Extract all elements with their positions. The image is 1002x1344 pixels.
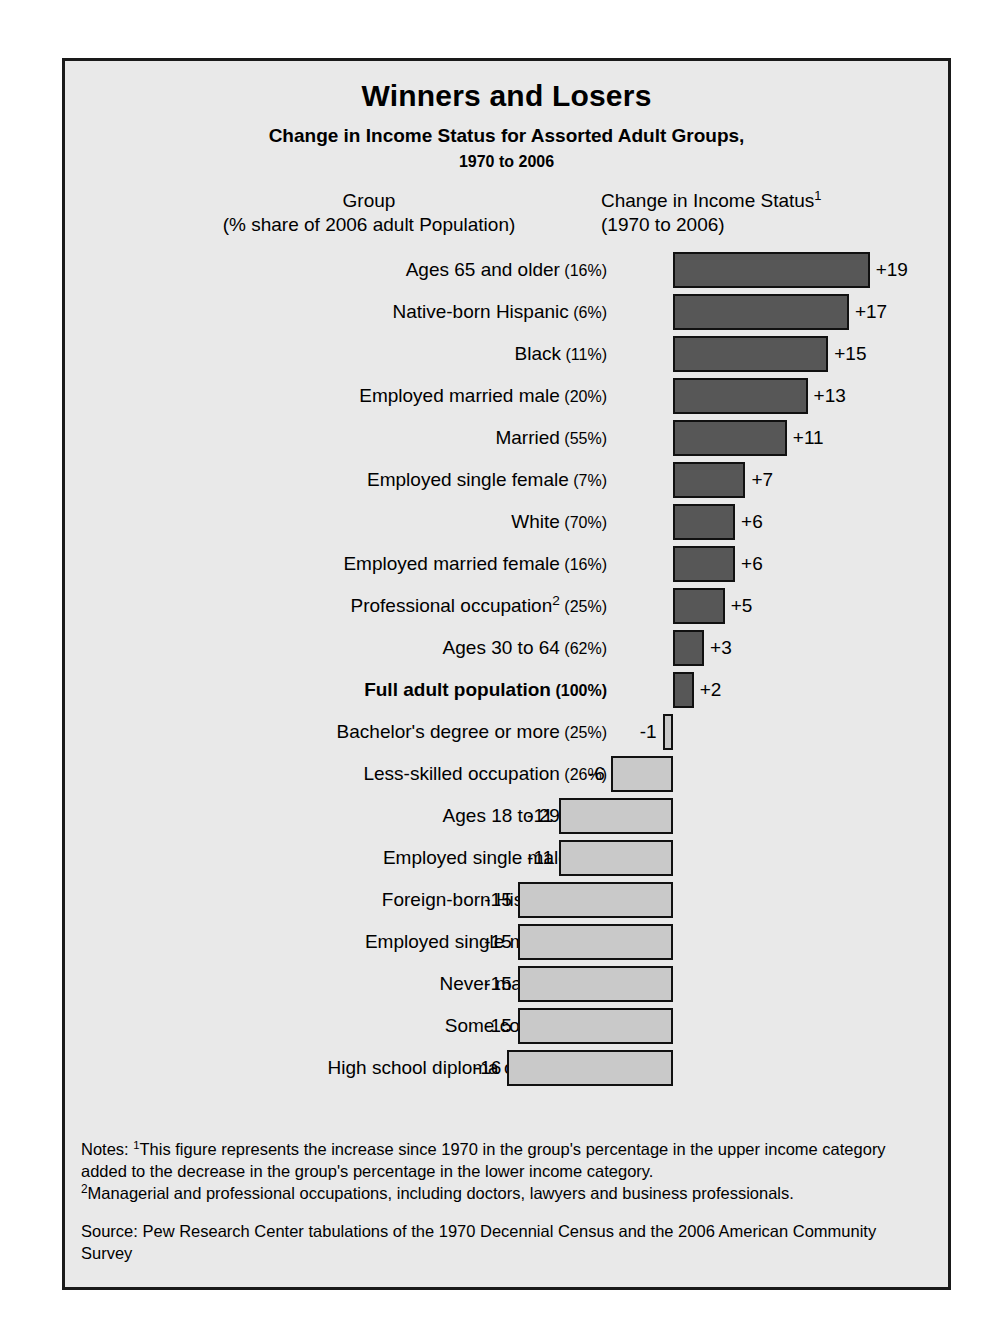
bar-row-name: Employed married female <box>343 553 559 574</box>
source-line: Source: Pew Research Center tabulations … <box>81 1221 932 1265</box>
bar-row: Married (55%)+11 <box>65 417 948 459</box>
note-text-1: This figure represents the increase sinc… <box>81 1140 886 1180</box>
bar-row-label: Black (11%) <box>515 333 607 375</box>
bar-row-label: Professional occupation2 (25%) <box>351 585 607 627</box>
notes-block: Notes: 1This figure represents the incre… <box>81 1139 932 1205</box>
bar-row: Employed single male (9%)-11 <box>65 837 948 879</box>
bar-row: Employed single mother (9%)-15 <box>65 921 948 963</box>
bar-value-label: -11 <box>513 795 553 837</box>
bar-row: Never married (25%)-15 <box>65 963 948 1005</box>
bar-value-label: +7 <box>751 459 773 501</box>
bar-value-label: -15 <box>472 921 512 963</box>
chart-figure: Winners and Losers Change in Income Stat… <box>62 58 951 1290</box>
bar-row-name: Less-skilled occupation <box>363 763 559 784</box>
bar-positive <box>673 294 849 330</box>
bar-row-label: Employed married female (16%) <box>343 543 607 585</box>
footnote-marker-1: 1 <box>814 187 821 202</box>
bar-row-share: (100%) <box>551 682 607 699</box>
bar-value-label: -6 <box>565 753 605 795</box>
bar-positive <box>673 672 694 708</box>
bar-row-label: Married (55%) <box>495 417 607 459</box>
bar-value-label: +11 <box>793 417 824 459</box>
bar-row-name: Bachelor's degree or more <box>337 721 560 742</box>
bar-value-label: -15 <box>472 879 512 921</box>
bar-row: White (70%)+6 <box>65 501 948 543</box>
bar-negative <box>507 1050 673 1086</box>
chart-subtitle-years: 1970 to 2006 <box>65 153 948 171</box>
chart-subtitle: Change in Income Status for Assorted Adu… <box>65 124 948 148</box>
bar-value-label: +6 <box>741 501 763 543</box>
bar-row: Ages 65 and older (16%)+19 <box>65 249 948 291</box>
column-header-change-text: Change in Income Status <box>601 190 814 211</box>
bar-row-name: Black <box>515 343 561 364</box>
bar-value-label: -11 <box>513 837 553 879</box>
bar-row: Foreign-born Hispanic (8%)-15 <box>65 879 948 921</box>
bar-row-label: White (70%) <box>511 501 607 543</box>
bar-value-label: +5 <box>731 585 753 627</box>
bar-negative <box>518 966 673 1002</box>
bar-row: Native-born Hispanic (6%)+17 <box>65 291 948 333</box>
bar-row-label: Native-born Hispanic (6%) <box>392 291 607 333</box>
bar-row-name: Employed married male <box>359 385 560 406</box>
bar-positive <box>673 504 735 540</box>
bar-negative <box>559 798 673 834</box>
bar-row-share: (6%) <box>569 304 607 321</box>
bar-row-share: (25%) <box>560 724 607 741</box>
bar-row: Ages 30 to 64 (62%)+3 <box>65 627 948 669</box>
bar-positive <box>673 546 735 582</box>
bar-row: Professional occupation2 (25%)+5 <box>65 585 948 627</box>
bar-row-label: Full adult population (100%) <box>364 669 607 711</box>
bar-row-name: Ages 30 to 64 <box>443 637 560 658</box>
bar-row-name: Married <box>495 427 559 448</box>
bar-row-share: (16%) <box>560 556 607 573</box>
bar-row: Ages 18 to 29 (21%)-11 <box>65 795 948 837</box>
bar-row: Black (11%)+15 <box>65 333 948 375</box>
notes-label: Notes: <box>81 1140 129 1158</box>
column-header-group-line2: (% share of 2006 adult Population) <box>65 213 673 237</box>
bar-value-label: +13 <box>814 375 846 417</box>
bar-value-label: +19 <box>876 249 908 291</box>
bar-value-label: +6 <box>741 543 763 585</box>
bar-row-share: (11%) <box>561 346 607 363</box>
bar-row-share: (7%) <box>569 472 607 489</box>
bar-row-name: White <box>511 511 560 532</box>
bar-positive <box>673 378 808 414</box>
bar-row-label: Bachelor's degree or more (25%) <box>337 711 607 753</box>
bar-value-label: +3 <box>710 627 732 669</box>
bar-row-label: Ages 30 to 64 (62%) <box>443 627 607 669</box>
bar-row-name: Employed single female <box>367 469 569 490</box>
bar-row-share: (55%) <box>560 430 607 447</box>
bar-row-share: (62%) <box>560 640 607 657</box>
bar-row: Less-skilled occupation (26%)-6 <box>65 753 948 795</box>
bar-row: Employed married male (20%)+13 <box>65 375 948 417</box>
bar-positive <box>673 420 787 456</box>
bar-row-share: (25%) <box>560 598 607 615</box>
bar-row: Bachelor's degree or more (25%)-1 <box>65 711 948 753</box>
column-header-group: Group (% share of 2006 adult Population) <box>65 189 673 238</box>
bar-positive <box>673 630 704 666</box>
bar-negative <box>611 756 673 792</box>
bar-row-name: Native-born Hispanic <box>392 301 568 322</box>
bar-value-label: +17 <box>855 291 887 333</box>
bar-plot-area: Ages 65 and older (16%)+19Native-born Hi… <box>65 249 948 1101</box>
bar-row-name: Professional occupation <box>351 595 553 616</box>
column-header-group-line1: Group <box>65 189 673 213</box>
bar-row-share: (70%) <box>560 514 607 531</box>
bar-row: Employed single female (7%)+7 <box>65 459 948 501</box>
bar-row-label: Employed married male (20%) <box>359 375 607 417</box>
bar-positive <box>673 336 828 372</box>
column-header-change-line1: Change in Income Status1 <box>601 189 822 213</box>
bar-row-share: (16%) <box>560 262 607 279</box>
bar-value-label: -16 <box>461 1047 501 1089</box>
bar-value-label: -15 <box>472 963 512 1005</box>
bar-negative <box>518 924 673 960</box>
bar-positive <box>673 462 745 498</box>
bar-negative <box>559 840 673 876</box>
bar-value-label: +2 <box>700 669 722 711</box>
bar-negative <box>518 1008 673 1044</box>
bar-row: High school diploma or less (47%)-16 <box>65 1047 948 1089</box>
chart-title: Winners and Losers <box>65 79 948 113</box>
bar-positive <box>673 252 870 288</box>
bar-negative <box>663 714 673 750</box>
bar-row: Some college (28%)-15 <box>65 1005 948 1047</box>
